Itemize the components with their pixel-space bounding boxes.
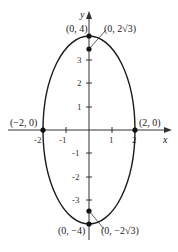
right-vertex-point [132,127,137,132]
bottom-vertex-label: (0, −4) [58,225,85,237]
x-tick-label: 1 [109,135,114,145]
y-tick-label: 1 [77,102,82,112]
x-axis-arrow-icon [164,127,172,133]
x-axis-label: x [162,134,168,145]
y-tick-label: 2 [77,78,82,88]
top-vertex-label: (0, 4) [66,23,88,35]
y-tick-label: -1 [72,148,80,158]
y-tick-label: -3 [72,195,80,205]
bottom-vertex-point [86,221,91,226]
top-vertex-point [86,33,91,38]
right-vertex-label: (2, 0) [139,117,161,129]
x-tick-label: -1 [59,135,67,145]
left-vertex-point [40,127,45,132]
bottom-focus-label: (0, −2√3) [101,225,139,237]
left-vertex-label: (−2, 0) [10,117,37,129]
y-axis-arrow-icon [86,11,92,19]
y-tick-label: -2 [72,172,80,182]
top-focus-label: (0, 2√3) [104,23,136,35]
y-tick-label: 3 [77,55,82,65]
y-axis-label: y [79,9,85,20]
x-tick-label: -2 [34,135,42,145]
ellipse-diagram: x y -2 -1 1 2 3 2 1 -1 -2 -3 [0,0,178,252]
